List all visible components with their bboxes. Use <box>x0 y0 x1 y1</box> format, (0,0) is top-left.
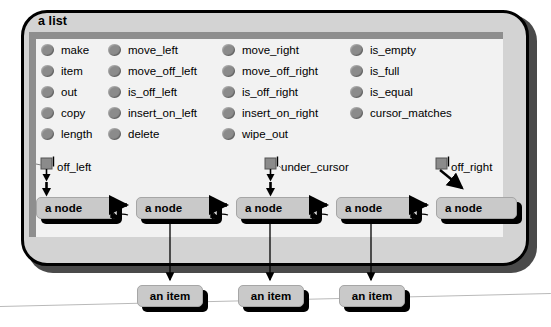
feature-item[interactable]: cursor_matches <box>350 107 452 119</box>
bullet-icon <box>41 65 54 77</box>
bullet-icon <box>41 44 54 56</box>
feature-item[interactable]: copy <box>41 107 85 119</box>
bullet-icon <box>222 128 235 140</box>
item-box[interactable]: an item <box>137 285 203 307</box>
bullet-icon <box>222 86 235 98</box>
node-box-body[interactable]: a node <box>36 197 117 219</box>
feature-item[interactable]: move_off_left <box>108 65 197 77</box>
node-box-body[interactable]: a node <box>136 197 217 219</box>
bullet-icon <box>108 44 121 56</box>
bullet-icon <box>222 44 235 56</box>
feature-item[interactable]: length <box>41 128 92 140</box>
cursor-marker-label-under-cursor: under_cursor <box>281 161 349 173</box>
bullet-icon <box>350 65 363 77</box>
node-box[interactable]: a node <box>236 197 317 219</box>
feature-panel-top-bar <box>29 32 503 39</box>
cursor-marker-label-off-right: off_right <box>451 161 492 173</box>
bullet-icon <box>222 107 235 119</box>
feature-panel-left-bar <box>29 32 36 237</box>
bullet-icon <box>350 86 363 98</box>
node-box-body[interactable]: a node <box>436 197 517 219</box>
cursor-marker-label-off-left: off_left <box>57 161 91 173</box>
diagram-canvas: a list make item out copy length move_le… <box>0 0 551 327</box>
feature-item[interactable]: move_off_right <box>222 65 318 77</box>
bullet-icon <box>108 107 121 119</box>
feature-item[interactable]: is_empty <box>350 44 416 56</box>
node-box-body[interactable]: a node <box>336 197 417 219</box>
bullet-icon <box>108 128 121 140</box>
bullet-icon <box>41 107 54 119</box>
bullet-icon <box>108 65 121 77</box>
feature-item[interactable]: is_equal <box>350 86 413 98</box>
item-box-body[interactable]: an item <box>137 285 203 307</box>
node-box-body[interactable]: a node <box>236 197 317 219</box>
list-panel-title: a list <box>38 14 67 28</box>
feature-item[interactable]: is_off_right <box>222 86 298 98</box>
item-box[interactable]: an item <box>238 285 304 307</box>
feature-item[interactable]: insert_on_left <box>108 107 197 119</box>
feature-item[interactable]: out <box>41 86 77 98</box>
feature-item[interactable]: wipe_out <box>222 128 288 140</box>
feature-item[interactable]: is_off_left <box>108 86 177 98</box>
node-box[interactable]: a node <box>136 197 217 219</box>
node-box[interactable]: a node <box>336 197 417 219</box>
bullet-icon <box>350 44 363 56</box>
bullet-icon <box>350 107 363 119</box>
feature-item[interactable]: item <box>41 65 83 77</box>
feature-item[interactable]: move_left <box>108 44 178 56</box>
feature-item[interactable]: make <box>41 44 89 56</box>
bullet-icon <box>108 86 121 98</box>
item-box[interactable]: an item <box>339 285 405 307</box>
item-box-body[interactable]: an item <box>238 285 304 307</box>
bullet-icon <box>41 86 54 98</box>
feature-item[interactable]: insert_on_right <box>222 107 318 119</box>
node-box[interactable]: a node <box>436 197 517 219</box>
feature-item[interactable]: is_full <box>350 65 399 77</box>
bullet-icon <box>41 128 54 140</box>
node-box[interactable]: a node <box>36 197 117 219</box>
item-box-body[interactable]: an item <box>339 285 405 307</box>
feature-item[interactable]: delete <box>108 128 159 140</box>
feature-item[interactable]: move_right <box>222 44 299 56</box>
bullet-icon <box>222 65 235 77</box>
